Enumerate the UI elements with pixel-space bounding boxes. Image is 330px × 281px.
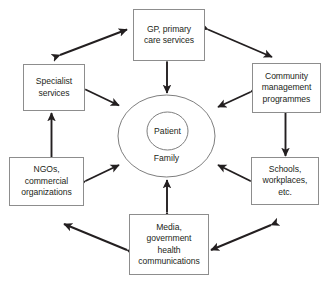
node-label: GP, primarycare services xyxy=(144,24,194,47)
patient-label: Patient xyxy=(154,126,181,136)
connector-media-ngos xyxy=(64,224,127,250)
node-ngos-commercial[interactable]: NGOs,commercialorganizations xyxy=(9,157,84,206)
node-schools-workplaces[interactable]: Schools,workplaces,etc. xyxy=(251,157,319,205)
family-label: Family xyxy=(154,153,179,163)
node-label: Communitymanagementprogrammes xyxy=(262,71,312,105)
node-gp-primary-care[interactable]: GP, primarycare services xyxy=(133,9,205,61)
node-label: Specialistservices xyxy=(36,76,72,99)
connector-community-core xyxy=(218,92,251,107)
connector-specialist-core xyxy=(86,90,120,106)
connector-schools-media xyxy=(211,225,271,250)
node-label: Media,governmenthealthcommunications xyxy=(138,222,199,267)
node-community-management[interactable]: Communitymanagementprogrammes xyxy=(252,63,321,113)
node-media-government[interactable]: Media,governmenthealthcommunications xyxy=(129,214,209,275)
node-specialist-services[interactable]: Specialistservices xyxy=(23,64,85,111)
node-label: Schools,workplaces,etc. xyxy=(263,164,308,198)
connector-gp-community xyxy=(208,30,272,58)
node-label: NGOs,commercialorganizations xyxy=(21,164,71,198)
connector-ngos-core xyxy=(86,165,120,181)
connector-schools-core xyxy=(218,165,251,181)
diagram-canvas: Patient Family GP, primarycare services … xyxy=(0,0,330,281)
connector-specialist-gp xyxy=(60,30,127,56)
